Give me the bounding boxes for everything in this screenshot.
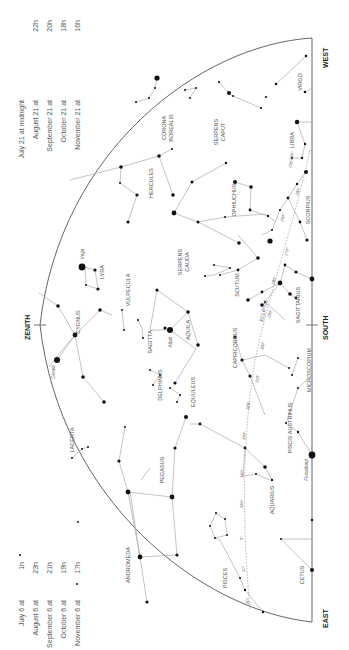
time-top-2-hour: 20h (46, 20, 53, 32)
label-serpens-caput-1: SERPENS (213, 119, 219, 146)
label-corona-2: BOREALIS (168, 114, 174, 142)
label-serpens-cauda-2: CAUDA (184, 252, 190, 272)
time-bottom-4-hour: 17h (74, 562, 81, 574)
deg-20: 20° (245, 597, 251, 605)
label-andromeda: ANDROMEDA (125, 547, 131, 583)
label-altair: Altair (168, 336, 173, 348)
label-cetus: CETUS (299, 565, 305, 584)
label-aquarius: AQUARIUS (269, 485, 275, 514)
label-serpens-cauda-1: SERPENS (177, 249, 183, 276)
deg-270: 270° (283, 247, 290, 258)
label-deneb: Deneb (51, 365, 56, 379)
times-top: July 21 at midnight August 21 at 22h Sep… (18, 20, 81, 158)
deg-250: 250° (279, 213, 286, 224)
time-bottom-3-hour: 19h (60, 562, 67, 574)
time-top-2: September 21 at (46, 100, 54, 152)
deg-10: 10° (241, 566, 246, 573)
star-chart: WEST EAST SOUTH ZENITH ECLIPTIC July 21 … (0, 0, 349, 650)
label-corona-1: CORONA (161, 116, 167, 140)
east-label: EAST (322, 609, 329, 628)
label-scorpius: SCORPIUS (305, 195, 311, 224)
label-sagitta: SAGITTA (147, 330, 153, 353)
deg-0: 0° (239, 536, 244, 540)
time-bottom-2-hour: 21h (46, 562, 53, 574)
south-label: SOUTH (322, 316, 329, 341)
west-label: WEST (322, 47, 329, 68)
label-delphinus: DELPHINUS (157, 369, 163, 401)
time-top-0: July 21 at midnight (18, 100, 26, 158)
label-vega: Vega (80, 248, 85, 259)
label-capricornus: CAPRICORNUS (232, 327, 238, 368)
label-scutum: SCUTUM (234, 273, 240, 297)
time-bottom-1: August 6 at (32, 600, 40, 635)
label-equuleus: EQUULEUS (190, 377, 196, 408)
ecliptic-degree-labels: 230° 240° 250° 260° 270° 280° 290° 300° … (239, 151, 301, 606)
deg-260: 260° (288, 151, 295, 162)
label-serpens-caput-2: CAPUT (220, 122, 226, 141)
label-cygnus: CYGNUS (75, 310, 81, 334)
label-pisces: PISCES (222, 568, 228, 589)
deg-300: 300° (259, 341, 266, 351)
label-virgo: VIRGO (297, 72, 303, 90)
label-lacerta: LACERTA (69, 427, 75, 452)
zenith-label: ZENITH (24, 315, 31, 340)
label-ophiuchus: OPHIUCHUS (231, 183, 237, 216)
time-bottom-3: October 6 at (60, 600, 67, 639)
deg-290: 290° (266, 309, 273, 320)
label-sagittarius: SAGITTARIUS (295, 287, 301, 324)
time-bottom-2: September 6 at (46, 600, 54, 648)
label-vulpecula: VULPECULA (125, 273, 131, 306)
label-libra: LIBRA (289, 132, 295, 148)
deg-330: 330° (241, 431, 247, 440)
constellation-labels: VIRGO LIBRA SCORPIUS CORONA BOREALIS SER… (69, 72, 312, 588)
time-top-3: October 21 at (60, 100, 67, 142)
time-bottom-1-hour: 23h (32, 562, 39, 574)
label-lyra: LYRA (99, 265, 105, 279)
label-hercules: HERCULES (148, 168, 154, 198)
time-bottom-0: July 6 at (18, 600, 26, 626)
deg-350: 350° (239, 499, 244, 508)
time-top-1: August 21 at (32, 100, 40, 139)
time-bottom-0-hour: 1h (18, 562, 25, 570)
label-piscis-austrinus: PISCIS AUSTRINUS (287, 402, 293, 453)
time-top-3-hour: 18h (60, 20, 67, 32)
deg-310: 310° (254, 374, 260, 383)
deg-320: 320° (245, 401, 251, 410)
time-top-1-hour: 22h (32, 20, 39, 32)
label-microscopium: MICROSCOPIUM (306, 348, 312, 392)
deg-240: 240° (294, 187, 301, 198)
label-aquila: AQUILA (185, 320, 191, 341)
time-bottom-4: November 6 at (74, 600, 81, 646)
time-top-4: November 21 at (74, 100, 81, 150)
label-pegasus: PEGASUS (159, 456, 165, 483)
label-fomalhaut: Fomalhaut (304, 459, 309, 481)
deg-340: 340° (239, 469, 245, 478)
time-top-4-hour: 16h (74, 20, 81, 32)
times-bottom: July 6 at 1h August 6 at 23h September 6… (18, 562, 81, 648)
